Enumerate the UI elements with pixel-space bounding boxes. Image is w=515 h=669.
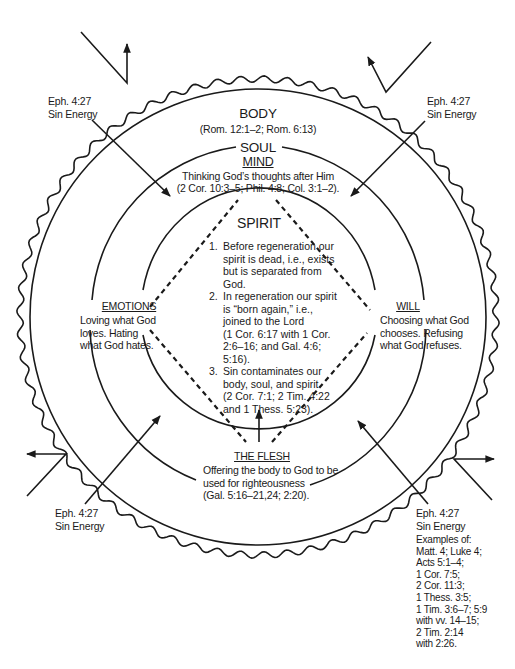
- mind-description: Thinking God’s thoughts after Him: [182, 170, 334, 183]
- mind-reference: (2 Cor. 10:3–5; Phil. 4:8; Col. 3:1–2).: [177, 182, 340, 195]
- deflect-top-left: [81, 32, 127, 83]
- deflect-bottom-right: [454, 459, 494, 500]
- spirit-point: 1. Before regeneration our spirit is dea…: [209, 240, 337, 290]
- soul-arc-left-lower: [90, 330, 196, 480]
- sin-energy-label-top-right: Eph. 4:27 Sin Energy: [427, 95, 476, 120]
- emotions-description: Loving what God loves. Hating what God h…: [80, 314, 156, 352]
- examples-list: Examples of: Matt. 4; Luke 4; Acts 5:1–4…: [416, 534, 487, 650]
- spirit-point: 2. In regeneration our spirit is “born a…: [209, 290, 337, 365]
- spirit-label: SPIRIT: [237, 216, 281, 231]
- sin-energy-label-top-left: Eph. 4:27 Sin Energy: [48, 95, 97, 120]
- sin-energy-label-bottom-right: Eph. 4:27 Sin Energy: [416, 507, 465, 532]
- deflect-top-right: [368, 42, 431, 92]
- body-label: BODY: [239, 106, 276, 121]
- mind-label: MIND: [242, 155, 273, 170]
- flesh-label: THE FLESH: [234, 450, 290, 463]
- arrow-top-right: [351, 121, 425, 196]
- will-label: WILL: [396, 300, 420, 313]
- deflect-bottom-left: [27, 454, 66, 496]
- flesh-description: Offering the body to God to be used for …: [203, 464, 338, 502]
- arrow-bottom-left: [85, 416, 160, 504]
- arrow-top-left: [92, 120, 170, 196]
- body-reference: (Rom. 12:1–2; Rom. 6:13): [200, 123, 317, 136]
- arrow-bottom-right: [358, 421, 428, 504]
- sin-energy-label-bottom-left: Eph. 4:27 Sin Energy: [55, 507, 104, 532]
- emotions-label: EMOTIONS: [102, 300, 156, 313]
- spirit-point: 3. Sin contaminates our body, soul, and …: [209, 365, 337, 415]
- will-description: Choosing what God chooses. Refusing what…: [380, 314, 469, 352]
- spirit-points-list: 1. Before regeneration our spirit is dea…: [209, 240, 337, 415]
- soul-label: SOUL: [240, 140, 276, 155]
